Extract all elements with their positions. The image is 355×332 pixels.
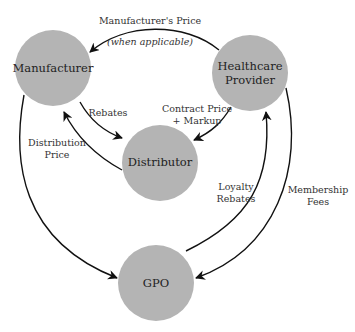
membership-fees-label-line1: Membership (288, 184, 349, 195)
distribution-price-label-line1: Distribution (28, 137, 86, 148)
rebates-label: Rebates (89, 107, 128, 118)
edge-manufacturer-to-gpo (20, 95, 117, 278)
manufacturers-price-label: Manufacturer's Price (99, 15, 202, 26)
distributor-label: Distributor (128, 155, 193, 169)
healthcare-provider-label-line2: Provider (225, 73, 276, 87)
distribution-price-label-line2: Price (45, 149, 70, 160)
contract-price-label-line2: + Markup (173, 115, 222, 126)
loyalty-rebates-label-line2: Rebates (217, 193, 256, 204)
node-healthcare-provider: Healthcare Provider (212, 35, 288, 111)
membership-fees-label-line2: Fees (307, 196, 329, 207)
node-distributor: Distributor (122, 125, 198, 201)
node-gpo: GPO (118, 245, 194, 321)
when-applicable-note: (when applicable) (107, 36, 193, 47)
contract-price-label-line1: Contract Price (162, 103, 233, 114)
healthcare-provider-label-line1: Healthcare (218, 59, 283, 73)
loyalty-rebates-label-line1: Loyalty (218, 181, 254, 192)
gpo-flow-diagram: Manufacturer Healthcare Provider Distrib… (0, 0, 355, 332)
manufacturer-label: Manufacturer (13, 61, 94, 75)
node-manufacturer: Manufacturer (13, 30, 94, 106)
gpo-label: GPO (143, 276, 169, 290)
